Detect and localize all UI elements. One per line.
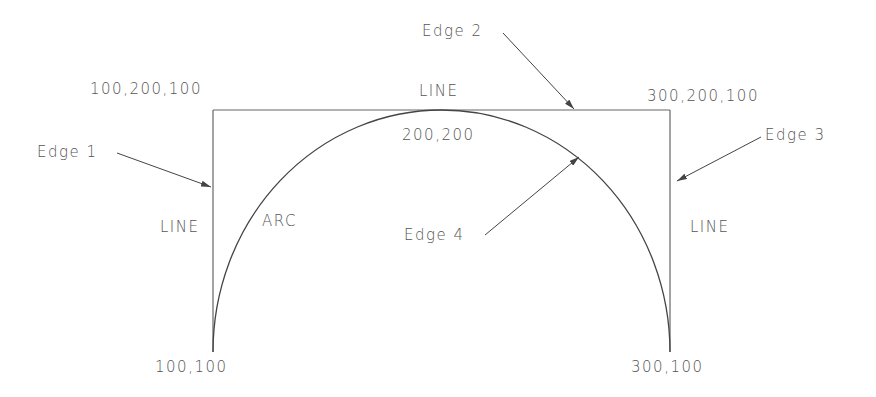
bottom-right-coord-label: 300,100 xyxy=(631,359,704,375)
edge-3-label: Edge 3 xyxy=(765,127,826,143)
left-line-label: LINE xyxy=(160,219,199,235)
arc-apex-coord-label: 200,200 xyxy=(402,127,475,143)
top-line-label: LINE xyxy=(419,83,458,99)
bottom-left-coord-label: 100,100 xyxy=(155,359,228,375)
edge-3-leader-arrow xyxy=(677,137,761,181)
top-left-coord-label: 100,200,100 xyxy=(90,81,202,97)
edge-1-leader-arrow xyxy=(117,153,211,187)
edge-2-label: Edge 2 xyxy=(422,23,483,39)
diagram-canvas xyxy=(0,0,876,397)
edge-4-leader-arrow xyxy=(485,157,579,235)
edge-1-label: Edge 1 xyxy=(37,144,98,160)
edge-2-leader-arrow xyxy=(503,33,574,109)
right-line-label: LINE xyxy=(690,219,729,235)
edge-4-label: Edge 4 xyxy=(404,227,465,243)
arc-label: ARC xyxy=(262,213,297,229)
top-right-coord-label: 300,200,100 xyxy=(647,88,759,104)
